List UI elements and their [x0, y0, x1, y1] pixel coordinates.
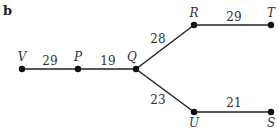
node-label-u: U — [189, 116, 200, 130]
edge-weight-u-s: 21 — [226, 96, 241, 110]
edge-weight-r-t: 29 — [226, 10, 241, 24]
node-t — [268, 22, 274, 28]
node-label-r: R — [188, 6, 198, 20]
node-label-v: V — [18, 50, 28, 64]
node-q — [133, 66, 139, 72]
node-label-p: P — [73, 50, 83, 64]
node-label-s: S — [267, 116, 275, 130]
node-u — [191, 109, 197, 115]
weighted-tree-diagram: b 29 19 28 29 23 21 V P Q R T U S — [0, 0, 279, 130]
edge-weight-v-p: 29 — [42, 54, 57, 68]
node-label-q: Q — [127, 50, 137, 64]
part-label: b — [3, 3, 12, 18]
node-s — [268, 109, 274, 115]
node-label-t: T — [267, 6, 276, 20]
edge-weight-q-u: 23 — [150, 93, 165, 107]
edge-weight-p-q: 19 — [100, 54, 115, 68]
edge-weight-q-r: 28 — [150, 32, 165, 46]
node-v — [19, 66, 25, 72]
node-p — [75, 66, 81, 72]
node-r — [191, 22, 197, 28]
